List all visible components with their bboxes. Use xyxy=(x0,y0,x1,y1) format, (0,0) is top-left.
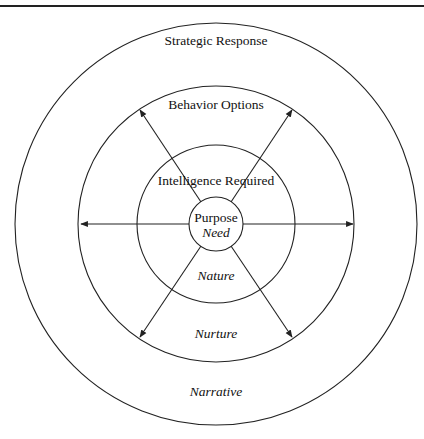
label-nurture: Nurture xyxy=(195,326,237,341)
arrow-lower-left xyxy=(140,246,201,337)
label-intelligence-required: Intelligence Required xyxy=(158,173,275,188)
arrow-lower-right xyxy=(231,246,292,337)
label-need: Need xyxy=(202,225,230,240)
arrow-upper-right xyxy=(231,110,292,202)
label-behavior-options: Behavior Options xyxy=(168,97,264,112)
arrow-upper-left xyxy=(140,110,201,202)
label-strategic-response: Strategic Response xyxy=(164,33,267,48)
label-purpose: Purpose xyxy=(194,210,238,225)
label-nature: Nature xyxy=(198,268,235,283)
label-narrative: Narrative xyxy=(190,384,243,399)
